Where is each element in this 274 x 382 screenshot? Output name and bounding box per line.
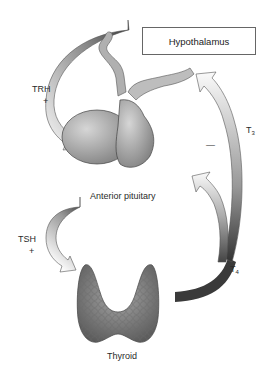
pituitary-gland [62,100,154,168]
hypothalamus-label: Hypothalamus [169,36,230,47]
t3-arrow [196,72,242,262]
tsh-sign: + [29,246,34,256]
hypothalamus-box: Hypothalamus [142,27,256,55]
t3-subscript: 3 [252,130,255,136]
anterior-pituitary-label: Anterior pituitary [90,191,156,201]
tsh-arrow [46,197,80,272]
trh-label: TRH [32,84,51,94]
t4-subscript: 4 [236,269,239,275]
t4-arrow [192,172,228,262]
thyroid-label: Thyroid [107,351,137,361]
t3-label: T3 [246,125,255,136]
tsh-label: TSH [18,234,36,244]
t4-label: T4 [230,264,239,275]
feedback-sign: — [206,140,215,150]
t4-base-arc [175,258,236,302]
thyroid-gland [77,265,158,343]
trh-sign: + [43,96,48,106]
